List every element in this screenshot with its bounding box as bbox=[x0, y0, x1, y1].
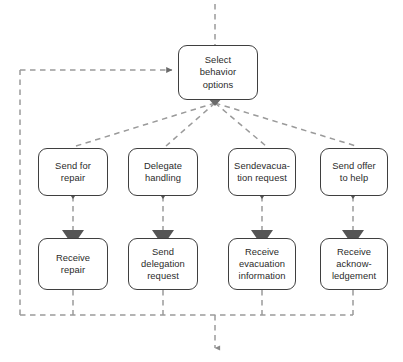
node-send-evacuation-request[interactable]: Sendevacua- tion request bbox=[228, 148, 296, 196]
connector-fan-col2 bbox=[166, 103, 215, 146]
node-select-behavior-options[interactable]: Select behavior options bbox=[178, 45, 258, 100]
node-send-offer-to-help[interactable]: Send offer to help bbox=[320, 148, 388, 196]
node-delegate-handling[interactable]: Delegate handling bbox=[128, 148, 198, 196]
node-label: Receive evacuation information bbox=[237, 246, 288, 283]
connector-fan-col3 bbox=[215, 103, 266, 146]
node-label: Send for repair bbox=[53, 160, 93, 184]
node-label: Sendevacua- tion request bbox=[232, 160, 292, 184]
node-receive-evacuation-information[interactable]: Receive evacuation information bbox=[228, 238, 296, 290]
node-label: Send delegation request bbox=[139, 246, 187, 283]
node-label: Receive acknow- ledgement bbox=[330, 246, 378, 283]
node-label: Delegate handling bbox=[142, 160, 184, 184]
node-send-for-repair[interactable]: Send for repair bbox=[38, 148, 108, 196]
connector-fan-col4 bbox=[215, 103, 356, 146]
node-label: Select behavior options bbox=[198, 54, 238, 91]
node-receive-repair[interactable]: Receive repair bbox=[38, 238, 108, 290]
flowchart-canvas: Select behavior options Send for repair … bbox=[0, 0, 403, 362]
connector-fan-col1 bbox=[76, 103, 215, 146]
node-label: Send offer to help bbox=[330, 160, 378, 184]
node-send-delegation-request[interactable]: Send delegation request bbox=[128, 238, 198, 290]
node-label: Receive repair bbox=[54, 252, 92, 276]
node-receive-acknowledgement[interactable]: Receive acknow- ledgement bbox=[320, 238, 388, 290]
